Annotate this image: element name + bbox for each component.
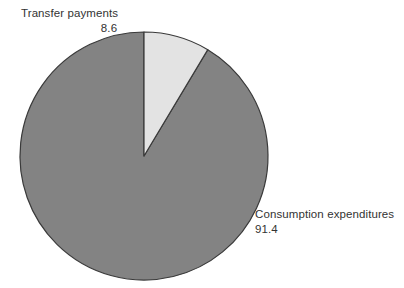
pie-chart: Transfer payments 8.6 Consumption expend… [0, 0, 404, 288]
pie-label-consumption-expenditures-value: 91.4 [255, 222, 394, 237]
pie-chart-canvas [0, 0, 404, 288]
pie-label-transfer-payments-value: 8.6 [21, 21, 118, 36]
pie-label-consumption-expenditures: Consumption expenditures 91.4 [255, 207, 394, 237]
pie-label-transfer-payments: Transfer payments 8.6 [21, 6, 118, 36]
pie-label-consumption-expenditures-name: Consumption expenditures [255, 207, 394, 222]
pie-label-transfer-payments-name: Transfer payments [21, 6, 118, 21]
